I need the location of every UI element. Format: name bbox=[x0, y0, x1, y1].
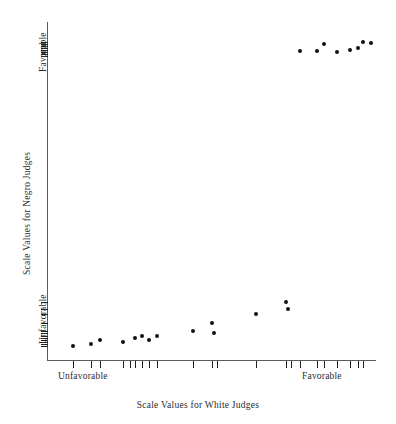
x-axis-tick bbox=[100, 361, 101, 368]
data-point bbox=[210, 321, 214, 325]
x-axis-tick bbox=[217, 361, 218, 368]
data-point bbox=[286, 307, 290, 311]
x-axis-tick bbox=[73, 361, 74, 368]
data-point bbox=[315, 49, 319, 53]
x-axis-tick bbox=[130, 361, 131, 368]
data-point bbox=[335, 50, 339, 54]
x-axis-tick bbox=[123, 361, 124, 368]
x-axis-tick bbox=[363, 361, 364, 368]
x-axis-tick bbox=[91, 361, 92, 368]
x-axis-category-unfavorable: Unfavorable bbox=[58, 371, 108, 381]
data-point bbox=[89, 342, 93, 346]
data-point bbox=[212, 331, 216, 335]
x-axis-tick bbox=[300, 361, 301, 368]
x-axis-tick bbox=[350, 361, 351, 368]
data-point bbox=[98, 338, 102, 342]
y-axis-tick bbox=[41, 344, 48, 345]
x-axis-tick bbox=[286, 361, 287, 368]
x-axis-tick bbox=[142, 361, 143, 368]
x-axis-tick bbox=[193, 361, 194, 368]
data-point bbox=[356, 46, 360, 50]
x-axis-tick bbox=[157, 361, 158, 368]
data-point bbox=[369, 41, 373, 45]
data-point bbox=[155, 334, 159, 338]
x-axis-tick bbox=[358, 361, 359, 368]
data-point bbox=[133, 336, 137, 340]
data-point bbox=[71, 344, 75, 348]
data-point bbox=[191, 329, 195, 333]
data-point bbox=[284, 300, 288, 304]
data-point bbox=[254, 312, 258, 316]
y-axis-tick bbox=[41, 346, 48, 347]
data-point bbox=[140, 334, 144, 338]
data-point bbox=[121, 340, 125, 344]
scatter-plot-figure: Unfavorable Favorable Favorable Unfavora… bbox=[0, 0, 396, 424]
x-axis-tick bbox=[256, 361, 257, 368]
x-axis-tick bbox=[324, 361, 325, 368]
x-axis-tick bbox=[337, 361, 338, 368]
data-point bbox=[322, 42, 326, 46]
x-axis-title: Scale Values for White Judges bbox=[0, 400, 396, 410]
x-axis-tick bbox=[291, 361, 292, 368]
x-axis-tick bbox=[149, 361, 150, 368]
y-axis-title: Scale Values for Negro Judges bbox=[22, 152, 32, 275]
data-point bbox=[147, 338, 151, 342]
x-axis-category-favorable: Favorable bbox=[302, 371, 342, 381]
y-axis-category-unfavorable: Unfavorable bbox=[38, 294, 48, 344]
top-caption-remnant bbox=[96, 0, 316, 9]
x-axis-tick bbox=[135, 361, 136, 368]
x-axis-tick bbox=[317, 361, 318, 368]
x-axis-tick bbox=[212, 361, 213, 368]
data-point bbox=[361, 40, 365, 44]
data-point bbox=[298, 49, 302, 53]
data-point bbox=[348, 48, 352, 52]
y-axis-category-favorable: Favorable bbox=[38, 32, 48, 72]
plot-area bbox=[48, 22, 375, 360]
